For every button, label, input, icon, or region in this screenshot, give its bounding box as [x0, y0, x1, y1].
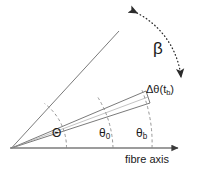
- label-theta-capital: Θ: [52, 127, 61, 139]
- label-delta-theta-main: Δθ(t: [146, 83, 166, 95]
- label-delta-theta-subscript: b: [166, 88, 170, 97]
- label-theta-b: θb: [136, 127, 147, 139]
- label-theta-zero-main: θ: [99, 126, 106, 140]
- label-theta-zero: θ0: [99, 127, 110, 139]
- fibre-axis-diagram: β Δθ(tb) Θ θ0 θb fibre axis: [0, 0, 202, 171]
- label-fibre-axis: fibre axis: [125, 154, 169, 165]
- label-beta: β: [153, 40, 163, 57]
- label-theta-b-subscript: b: [143, 132, 148, 141]
- label-delta-theta-close: ): [170, 83, 174, 95]
- label-theta-b-main: θ: [136, 126, 143, 140]
- cone-centre-line: [12, 97, 149, 148]
- label-delta-theta: Δθ(tb): [146, 84, 174, 95]
- cone-upper-edge: [12, 91, 147, 148]
- label-theta-zero-subscript: 0: [106, 132, 111, 141]
